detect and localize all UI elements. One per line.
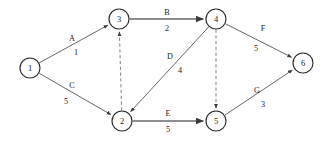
edge-a: [39, 25, 108, 63]
edge-label-a: A: [69, 34, 75, 43]
edge-label-e: E: [165, 109, 170, 118]
edge-weight-g: 3: [261, 100, 265, 109]
edge-label-d: D: [167, 52, 173, 61]
node-label-2: 2: [120, 116, 124, 126]
edges-layer: [39, 19, 292, 121]
graph-node-3[interactable]: 3: [109, 9, 129, 29]
edge-label-f: F: [261, 24, 266, 33]
node-label-5: 5: [214, 116, 218, 126]
graph-diagram-canvas: 134625 A1B2C5D4E5F5G3: [0, 0, 329, 143]
edge-weight-b: 2: [165, 24, 169, 33]
edge-f: [225, 24, 291, 57]
graph-node-2[interactable]: 2: [112, 111, 132, 131]
edge-weight-e: 5: [166, 125, 170, 134]
node-label-3: 3: [117, 14, 121, 24]
graph-node-5[interactable]: 5: [206, 111, 226, 131]
edge-d: [131, 27, 209, 112]
edge-label-c: C: [69, 81, 75, 90]
graph-node-4[interactable]: 4: [206, 9, 226, 29]
edge-dashed-2-3: [119, 32, 121, 111]
edge-weight-a: 1: [74, 48, 78, 57]
node-label-1: 1: [28, 63, 32, 73]
node-label-6: 6: [301, 58, 305, 68]
graph-svg: 134625 A1B2C5D4E5F5G3: [0, 0, 329, 143]
graph-node-1[interactable]: 1: [20, 58, 40, 78]
edge-labels-layer: A1B2C5D4E5F5G3: [64, 8, 266, 134]
edge-label-g: G: [254, 86, 260, 95]
edge-weight-d: 4: [178, 66, 182, 75]
edge-weight-c: 5: [64, 97, 68, 106]
edge-weight-f: 5: [254, 44, 258, 53]
graph-node-6[interactable]: 6: [293, 53, 313, 73]
edge-c: [39, 73, 111, 114]
edge-label-b: B: [164, 8, 170, 17]
